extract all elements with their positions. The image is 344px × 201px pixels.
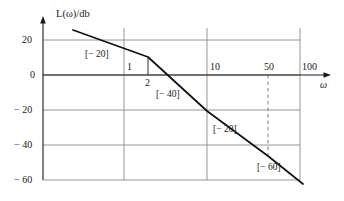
y-axis-title: L(ω)/db	[56, 9, 90, 20]
bode-magnitude-figure: L(ω)/db ω 20 0 − 20 − 40 − 60 1 2 10 50 …	[0, 0, 344, 201]
x-axis-arrowhead	[324, 72, 332, 78]
x-tick-label-2: 2	[145, 78, 150, 88]
x-tick-label-10: 10	[210, 62, 220, 72]
x-axis-title: ω	[320, 80, 327, 90]
vertical-gridlines	[124, 28, 300, 180]
horizontal-gridlines	[43, 40, 300, 180]
x-tick-label-100: 100	[302, 62, 317, 72]
y-tick-label--20: − 20	[14, 105, 32, 115]
x-tick-label-50: 50	[264, 62, 274, 72]
slope-label-segment-2: [− 40]	[156, 90, 180, 100]
y-tick-label--40: − 40	[14, 140, 32, 150]
y-tick-label--60: − 60	[14, 175, 32, 185]
y-axis-arrowhead	[40, 16, 46, 24]
slope-label-segment-4: [− 60]	[257, 163, 281, 173]
plot-canvas	[0, 0, 344, 201]
slope-label-segment-3: [− 20]	[213, 125, 237, 135]
slope-label-segment-1: [− 20]	[85, 50, 109, 60]
y-tick-label-20: 20	[22, 35, 32, 45]
y-tick-label-0: 0	[30, 70, 35, 80]
x-tick-label-1: 1	[127, 62, 132, 72]
